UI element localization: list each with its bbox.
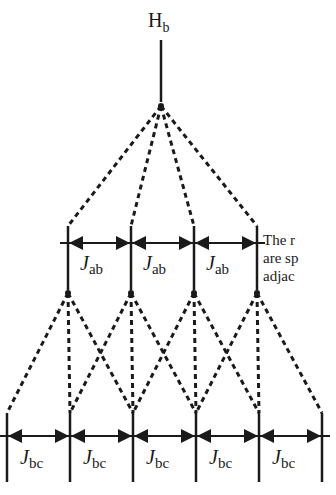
level1-lines	[68, 226, 257, 290]
side-caption: The r are sp adjac	[263, 231, 298, 285]
jbc-label-1: Jbc	[20, 446, 43, 471]
side-caption-line-3: adjac	[263, 267, 298, 285]
hb-label: Hb	[148, 9, 169, 35]
side-caption-line-1: The r	[263, 231, 298, 249]
level2-dashed-fan	[7, 293, 322, 413]
side-caption-line-2: are sp	[263, 249, 298, 267]
jab-label-1: Jab	[80, 252, 103, 277]
level1-nodes	[65, 290, 260, 296]
jbc-label-3: Jbc	[146, 446, 169, 471]
jab-label-3: Jab	[206, 252, 229, 277]
jbc-label-2: Jbc	[83, 446, 106, 471]
level1-dashed-fan	[68, 106, 257, 226]
jbc-label-4: Jbc	[209, 446, 232, 471]
jbc-label-5: Jbc	[272, 446, 295, 471]
jab-label-2: Jab	[143, 252, 166, 277]
